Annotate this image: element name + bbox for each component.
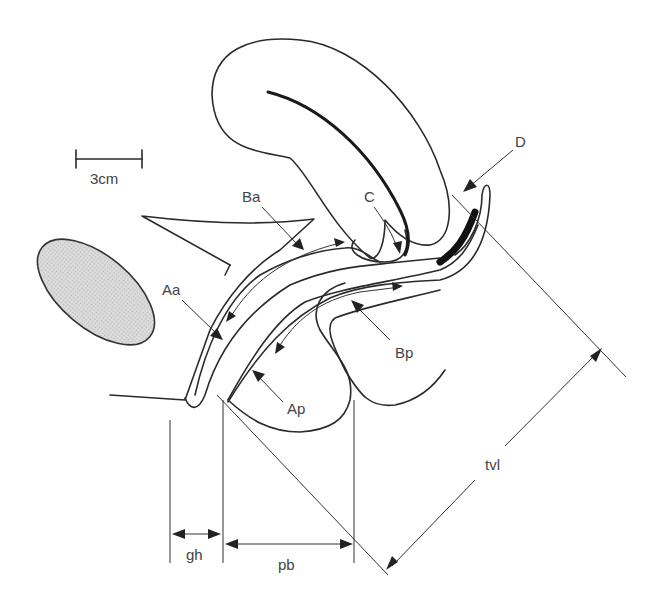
point-bp: Bp: [275, 282, 413, 361]
point-ap: Ap: [252, 370, 305, 417]
tvl-measurement: tvl: [217, 195, 626, 575]
vagina-anterior-wall-outer: [195, 248, 380, 395]
gh-label: gh: [186, 546, 203, 563]
endometrial-line: [268, 92, 408, 255]
bp-label: Bp: [395, 344, 413, 361]
uterus-outline: [212, 39, 449, 258]
scale-bar-label: 3cm: [90, 170, 118, 187]
ap-label: Ap: [287, 400, 305, 417]
point-aa: Aa: [162, 281, 223, 340]
gh-measurement: gh: [170, 400, 223, 563]
point-d: D: [463, 133, 526, 192]
vaginal-vault-mark: [440, 212, 475, 262]
scale-bar: 3cm: [76, 150, 142, 187]
vagina-anterior-wall-inner: [185, 258, 440, 407]
aa-label: Aa: [162, 281, 181, 298]
d-label: D: [515, 133, 526, 150]
c-label: C: [364, 188, 375, 205]
tvl-label: tvl: [485, 456, 500, 473]
perineal-body-outline: [330, 290, 445, 405]
pb-measurement: pb: [225, 400, 354, 573]
pubic-bone: [19, 219, 173, 364]
pop-q-diagram: 3cm gh pb tvl: [0, 0, 654, 601]
bladder-lower-edge: [225, 265, 230, 275]
ba-label: Ba: [242, 188, 261, 205]
pb-label: pb: [278, 556, 295, 573]
vagina-posterior-wall-outer: [228, 185, 490, 402]
